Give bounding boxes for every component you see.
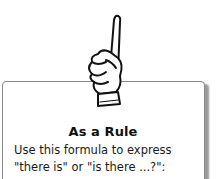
pointing-hand-icon: [78, 12, 140, 116]
rule-text-line: "there is" or "is there ...?":: [14, 160, 165, 174]
rule-title: As a Rule: [0, 124, 206, 139]
rule-text-line: Use this formula to express: [14, 143, 172, 157]
